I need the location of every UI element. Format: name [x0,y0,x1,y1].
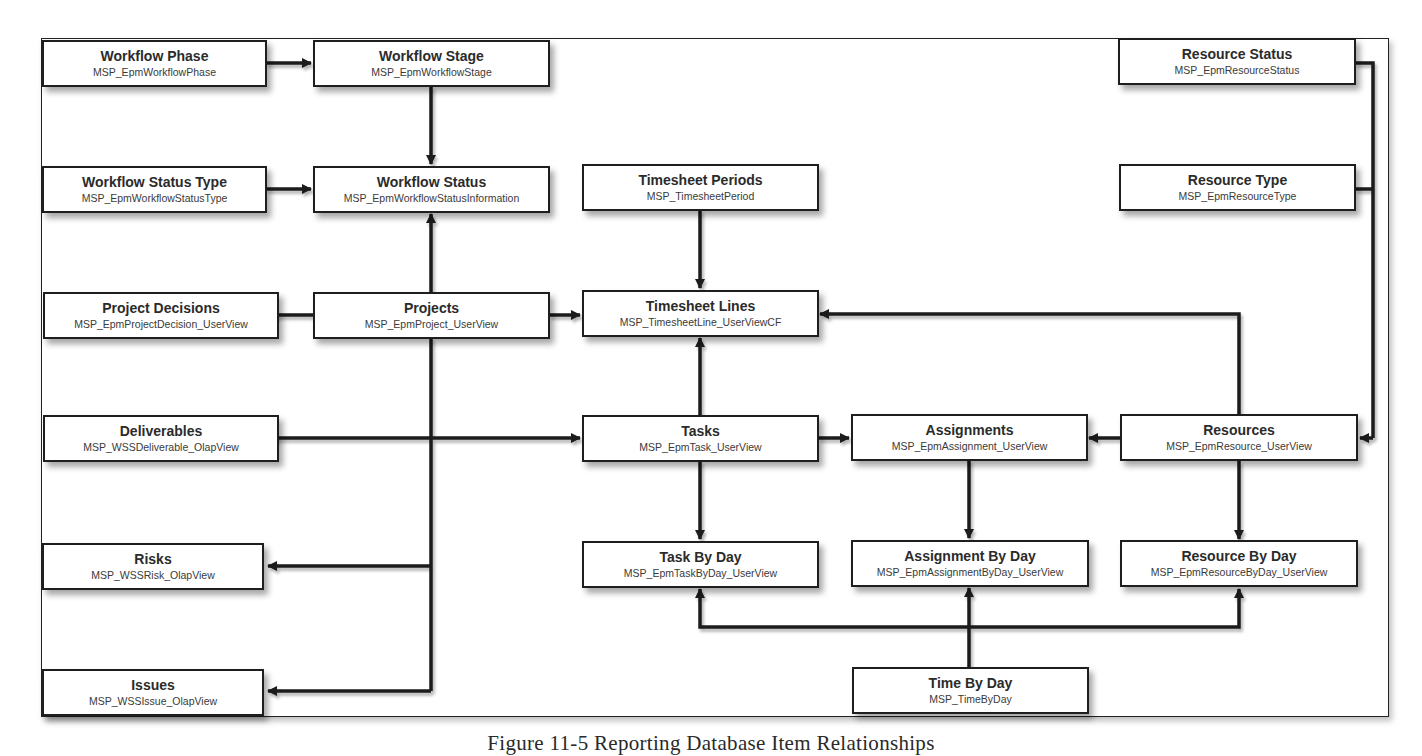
entity-table-name: MSP_EpmResourceStatus [1120,63,1354,77]
entity-projects[interactable]: Projects MSP_EpmProject_UserView [313,292,550,339]
entity-timesheet-periods[interactable]: Timesheet Periods MSP_TimesheetPeriod [582,164,819,211]
entity-title: Workflow Status [315,174,548,191]
entity-table-name: MSP_EpmResourceByDay_UserView [1122,565,1356,579]
entity-tasks[interactable]: Tasks MSP_EpmTask_UserView [582,415,819,462]
entity-title: Workflow Status Type [44,174,265,191]
entity-table-name: MSP_TimesheetPeriod [584,189,817,203]
entity-table-name: MSP_EpmProjectDecision_UserView [45,317,277,331]
entity-title: Tasks [584,423,817,440]
entity-workflow-phase[interactable]: Workflow Phase MSP_EpmWorkflowPhase [42,40,267,87]
entity-table-name: MSP_EpmResourceType [1121,189,1354,203]
entity-title: Resource Status [1120,46,1354,63]
entity-resources[interactable]: Resources MSP_EpmResource_UserView [1120,414,1358,461]
entity-table-name: MSP_EpmWorkflowStatusType [44,191,265,205]
entity-table-name: MSP_EpmAssignment_UserView [853,439,1086,453]
entity-table-name: MSP_EpmWorkflowStatusInformation [315,191,548,205]
entity-table-name: MSP_EpmTask_UserView [584,440,817,454]
entity-resource-by-day[interactable]: Resource By Day MSP_EpmResourceByDay_Use… [1120,540,1358,587]
entity-project-decisions[interactable]: Project Decisions MSP_EpmProjectDecision… [43,292,279,339]
entity-issues[interactable]: Issues MSP_WSSIssue_OlapView [42,669,264,716]
entity-table-name: MSP_TimeByDay [854,692,1087,706]
entity-table-name: MSP_EpmWorkflowPhase [44,65,265,79]
connector-timebyday-resbyday [969,589,1239,627]
entity-title: Issues [44,677,262,694]
entity-task-by-day[interactable]: Task By Day MSP_EpmTaskByDay_UserView [582,541,819,588]
entity-table-name: MSP_EpmProject_UserView [315,317,548,331]
entity-title: Timesheet Lines [584,298,817,315]
figure-caption: Figure 11-5 Reporting Database Item Rela… [0,731,1422,756]
entity-table-name: MSP_EpmTaskByDay_UserView [584,566,817,580]
entity-title: Resources [1122,422,1356,439]
entity-workflow-status[interactable]: Workflow Status MSP_EpmWorkflowStatusInf… [313,166,550,213]
entity-title: Assignments [853,422,1086,439]
entity-table-name: MSP_EpmResource_UserView [1122,439,1356,453]
entity-table-name: MSP_EpmWorkflowStage [315,65,548,79]
entity-workflow-stage[interactable]: Workflow Stage MSP_EpmWorkflowStage [313,40,550,87]
entity-title: Resource By Day [1122,548,1356,565]
connector-timebyday-taskbyday [700,589,969,627]
entity-title: Task By Day [584,549,817,566]
entity-title: Project Decisions [45,300,277,317]
connector-resources-tslines [820,314,1239,415]
entity-title: Time By Day [854,675,1087,692]
entity-table-name: MSP_EpmAssignmentByDay_UserView [853,565,1087,579]
entity-table-name: MSP_WSSIssue_OlapView [44,694,262,708]
entity-title: Risks [44,551,262,568]
entity-table-name: MSP_WSSDeliverable_OlapView [45,440,277,454]
entity-table-name: MSP_WSSRisk_OlapView [44,568,262,582]
entity-risks[interactable]: Risks MSP_WSSRisk_OlapView [42,543,264,590]
entity-time-by-day[interactable]: Time By Day MSP_TimeByDay [852,667,1089,714]
entity-deliverables[interactable]: Deliverables MSP_WSSDeliverable_OlapView [43,415,279,462]
entity-resource-type[interactable]: Resource Type MSP_EpmResourceType [1119,164,1356,211]
entity-title: Timesheet Periods [584,172,817,189]
entity-table-name: MSP_TimesheetLine_UserViewCF [584,315,817,329]
entity-resource-status[interactable]: Resource Status MSP_EpmResourceStatus [1118,38,1356,85]
entity-title: Projects [315,300,548,317]
entity-title: Assignment By Day [853,548,1087,565]
connector-resstatus-trunk [1355,63,1373,438]
entity-title: Workflow Phase [44,48,265,65]
entity-workflow-status-type[interactable]: Workflow Status Type MSP_EpmWorkflowStat… [42,166,267,213]
entity-title: Resource Type [1121,172,1354,189]
entity-title: Workflow Stage [315,48,548,65]
entity-assignment-by-day[interactable]: Assignment By Day MSP_EpmAssignmentByDay… [851,540,1089,587]
entity-title: Deliverables [45,423,277,440]
entity-assignments[interactable]: Assignments MSP_EpmAssignment_UserView [851,414,1088,461]
entity-timesheet-lines[interactable]: Timesheet Lines MSP_TimesheetLine_UserVi… [582,290,819,337]
